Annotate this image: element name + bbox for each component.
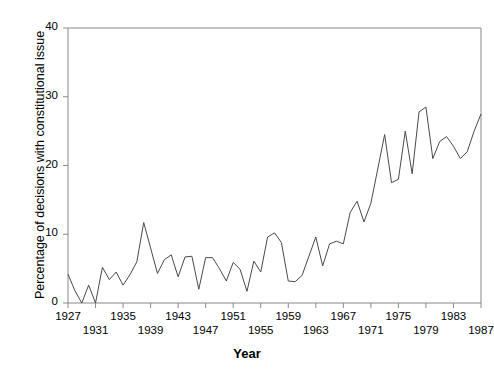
y-tick-label: 30 <box>32 89 58 101</box>
x-tick-label: 1927 <box>51 310 85 322</box>
x-tick-label: 1947 <box>189 324 223 336</box>
x-tick-label: 1975 <box>381 310 415 322</box>
data-series-line <box>68 107 481 303</box>
x-tick-label: 1987 <box>464 324 494 336</box>
x-tick-label: 1967 <box>326 310 360 322</box>
x-tick-label: 1935 <box>106 310 140 322</box>
x-tick-label: 1931 <box>79 324 113 336</box>
x-tick-label: 1951 <box>216 310 250 322</box>
x-tick-label: 1963 <box>299 324 333 336</box>
x-tick-label: 1979 <box>409 324 443 336</box>
chart-figure: Percentage of decisions with constitutio… <box>0 0 494 385</box>
x-tick-label: 1971 <box>354 324 388 336</box>
x-tick-label: 1983 <box>436 310 470 322</box>
x-tick-label: 1955 <box>244 324 278 336</box>
x-tick-label: 1943 <box>161 310 195 322</box>
y-tick-label: 10 <box>32 226 58 238</box>
x-tick-label: 1939 <box>134 324 168 336</box>
y-tick-label: 20 <box>32 158 58 170</box>
x-tick-label: 1959 <box>271 310 305 322</box>
x-axis-title: Year <box>0 346 494 361</box>
y-tick-label: 40 <box>32 20 58 32</box>
y-tick-label: 0 <box>32 295 58 307</box>
